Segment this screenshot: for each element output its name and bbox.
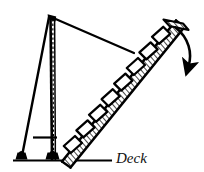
deck-label: Deck: [115, 150, 147, 166]
figure-container: Deck: [0, 0, 204, 172]
ladder-diagram: Deck: [0, 0, 204, 172]
